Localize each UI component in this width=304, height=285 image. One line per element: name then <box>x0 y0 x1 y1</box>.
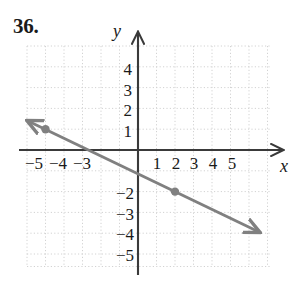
y-tick-label: 2 <box>124 101 133 120</box>
y-tick-label: −4 <box>116 225 135 244</box>
x-tick-label: 4 <box>209 154 218 173</box>
y-tick-label: −3 <box>116 205 134 224</box>
y-tick-label: −2 <box>116 184 134 203</box>
data-point <box>41 125 49 133</box>
plotted-line <box>30 122 257 231</box>
x-tick-label: 5 <box>228 154 237 173</box>
y-tick-label: 3 <box>124 81 133 100</box>
x-tick-label: −4 <box>49 154 68 173</box>
coordinate-plane-graph: y x 4 3 2 1 −2 −3 −4 −5 −5 −4 −3 1 2 3 4… <box>0 0 304 285</box>
y-tick-label: −5 <box>116 246 134 265</box>
y-tick-label: 4 <box>124 60 133 79</box>
exercise-figure: 36. <box>0 0 304 285</box>
y-tick-label: 1 <box>124 122 133 141</box>
data-point <box>171 187 179 195</box>
x-axis-label: x <box>279 156 288 176</box>
x-tick-label: −3 <box>73 154 91 173</box>
x-tick-label: −5 <box>25 154 43 173</box>
y-tick-labels: 4 3 2 1 −2 −3 −4 −5 <box>116 60 135 265</box>
x-tick-label: 3 <box>190 154 199 173</box>
x-tick-label: 2 <box>172 154 181 173</box>
y-axis-label: y <box>111 21 121 41</box>
x-tick-label: 1 <box>153 154 162 173</box>
